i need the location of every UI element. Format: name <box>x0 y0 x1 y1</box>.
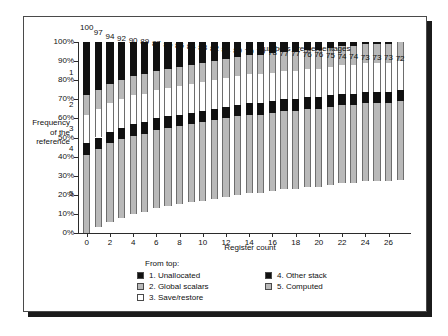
stack-region-number: 2 <box>69 100 73 109</box>
bar-stack[interactable] <box>246 42 253 233</box>
plot-area: 1009794929089878685848382818079797877777… <box>78 42 410 233</box>
x-axis-tick-label: 24 <box>355 238 375 247</box>
bar-segment <box>315 97 322 108</box>
bar-segment <box>176 67 183 86</box>
bar-segment <box>83 155 90 233</box>
y-axis-tick-mark <box>74 138 78 139</box>
bar-stack[interactable] <box>280 42 287 233</box>
bar-stack[interactable] <box>188 42 195 233</box>
x-axis-tick-mark <box>110 233 111 237</box>
bar-segment <box>106 143 113 221</box>
bar-segment <box>315 109 322 187</box>
bar-stack[interactable] <box>130 42 137 233</box>
bar-segment <box>118 80 125 99</box>
bar-segment <box>130 136 137 214</box>
x-axis-tick-mark <box>133 233 134 237</box>
bar-stack[interactable] <box>362 42 369 233</box>
legend-title: From top: <box>145 259 179 268</box>
bar-segment <box>199 122 206 200</box>
bar-segment <box>95 149 102 227</box>
bar-segment <box>338 105 345 183</box>
bar-stack[interactable] <box>269 42 276 233</box>
bar-segment <box>257 115 264 193</box>
y-axis-tick-label: 30% <box>58 172 74 180</box>
bar-stack[interactable] <box>350 42 357 233</box>
bar-segment <box>257 103 264 114</box>
bar-segment <box>164 116 171 127</box>
y-axis-tick-mark <box>74 99 78 100</box>
bar-segment <box>199 63 206 82</box>
bar-segment <box>83 143 90 154</box>
bar-stack[interactable] <box>234 42 241 233</box>
x-axis-tick-label: 26 <box>379 238 399 247</box>
bar-segment <box>95 109 102 138</box>
x-axis-tick-label: 20 <box>309 238 329 247</box>
bar-segment <box>292 111 299 189</box>
bar-segment <box>373 103 380 181</box>
bar-segment <box>234 57 241 76</box>
bar-segment <box>130 42 137 76</box>
bar-stack[interactable] <box>106 42 113 233</box>
bar-segment <box>338 94 345 105</box>
x-axis-tick-label: 16 <box>262 238 282 247</box>
bar-segment <box>83 115 90 144</box>
x-axis-tick-mark <box>156 233 157 237</box>
chart-annotation: Numbers are percentages <box>258 44 351 53</box>
bar-segment <box>246 115 253 193</box>
bar-segment <box>211 109 218 120</box>
x-axis-tick-mark <box>389 233 390 237</box>
x-axis-tick-mark <box>319 233 320 237</box>
bar-stack[interactable] <box>292 42 299 233</box>
y-axis-tick-mark <box>74 42 78 43</box>
bar-segment <box>153 90 160 119</box>
legend-label: 2. Global scalars <box>149 281 209 292</box>
bar-segment <box>118 99 125 128</box>
x-axis-tick-mark <box>180 233 181 237</box>
bar-stack[interactable] <box>164 42 171 233</box>
bar-segment <box>164 128 171 206</box>
legend-swatch-icon <box>265 272 272 279</box>
bar-stack[interactable] <box>304 42 311 233</box>
bar-stack[interactable] <box>373 42 380 233</box>
bar-stack[interactable] <box>222 42 229 233</box>
x-axis-tick-label: 18 <box>286 238 306 247</box>
bar-segment <box>176 86 183 115</box>
bar-segment <box>373 63 380 92</box>
bar-stack[interactable] <box>257 42 264 233</box>
bar-stack[interactable] <box>315 42 322 233</box>
x-axis-tick-label: 8 <box>170 238 190 247</box>
bar-segment <box>188 124 195 202</box>
y-axis-tick-label: 80% <box>58 76 74 84</box>
y-axis-tick-label: 0% <box>62 229 74 237</box>
bar-segment <box>280 71 287 100</box>
bar-stack[interactable] <box>385 42 392 233</box>
bar-segment <box>362 103 369 181</box>
bar-stack[interactable] <box>83 42 90 233</box>
bar-stack[interactable] <box>211 42 218 233</box>
chart-figure: Frequency of the reference 0%10%20%30%40… <box>0 0 448 336</box>
x-axis-tick-label: 12 <box>216 238 236 247</box>
bar-stack[interactable] <box>199 42 206 233</box>
stack-region-number: 3 <box>69 124 73 133</box>
bar-segment <box>95 90 102 109</box>
y-axis-tick-mark <box>74 233 78 234</box>
bar-segment <box>153 118 160 129</box>
y-axis-tick-label: 60% <box>58 114 74 122</box>
bar-segment <box>83 42 90 95</box>
legend-label: 5. Computed <box>277 281 323 292</box>
bar-stack[interactable] <box>118 42 125 233</box>
x-axis-tick-mark <box>226 233 227 237</box>
bar-stack[interactable] <box>338 42 345 233</box>
bar-stack[interactable] <box>141 42 148 233</box>
bar-segment <box>362 63 369 92</box>
y-axis-tick-label: 100% <box>54 38 74 46</box>
bar-segment <box>141 74 148 93</box>
bar-stack[interactable] <box>327 42 334 233</box>
x-axis-tick-mark <box>296 233 297 237</box>
bar-segment <box>292 71 299 100</box>
bar-stack[interactable] <box>95 42 102 233</box>
bar-segment <box>269 101 276 112</box>
bar-stack[interactable] <box>153 42 160 233</box>
bar-stack[interactable] <box>397 42 404 233</box>
bar-stack[interactable] <box>176 42 183 233</box>
